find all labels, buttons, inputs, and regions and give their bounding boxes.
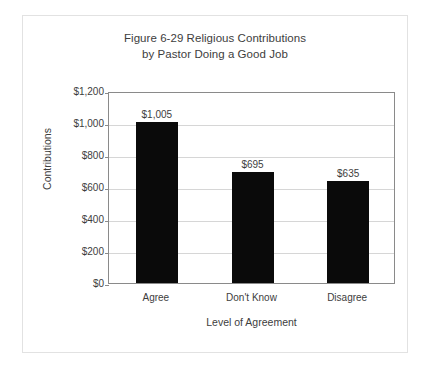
x-axis-category-labels: AgreeDon't KnowDisagree [108, 292, 395, 306]
x-axis-title: Level of Agreement [108, 316, 395, 328]
x-axis-category-label: Disagree [297, 292, 397, 304]
y-axis-tick-mark [105, 285, 109, 286]
bar[interactable] [327, 181, 369, 283]
x-axis-category-label: Don't Know [202, 292, 302, 304]
bar[interactable] [136, 122, 178, 283]
y-axis-tick-mark [105, 157, 109, 158]
y-axis-tick-label: $600 [56, 183, 104, 193]
y-axis-tick-mark [105, 125, 109, 126]
y-axis-tick-mark [105, 253, 109, 254]
y-axis-tick-mark [105, 221, 109, 222]
y-axis-tick-label: $800 [56, 151, 104, 161]
y-axis-tick-label: $1,000 [56, 119, 104, 129]
plot-area: $1,005$695$635 [108, 92, 395, 284]
y-axis-tick-label: $0 [56, 279, 104, 289]
bar[interactable] [232, 172, 274, 283]
x-axis-category-label: Agree [106, 292, 206, 304]
bar-value-label: $635 [308, 169, 388, 179]
chart-title-line-1: Figure 6-29 Religious Contributions [22, 30, 408, 46]
bar-value-label: $1,005 [117, 110, 197, 120]
chart-title: Figure 6-29 Religious Contributions by P… [22, 30, 408, 62]
y-axis-tick-label: $200 [56, 247, 104, 257]
y-axis-tick-mark [105, 93, 109, 94]
y-axis-tick-mark [105, 189, 109, 190]
y-axis-tick-label: $1,200 [56, 87, 104, 97]
chart-title-line-2: by Pastor Doing a Good Job [22, 46, 408, 62]
y-axis-tick-label: $400 [56, 215, 104, 225]
y-axis-tick-labels: $0$200$400$600$800$1,000$1,200 [52, 92, 104, 284]
bar-value-label: $695 [213, 160, 293, 170]
